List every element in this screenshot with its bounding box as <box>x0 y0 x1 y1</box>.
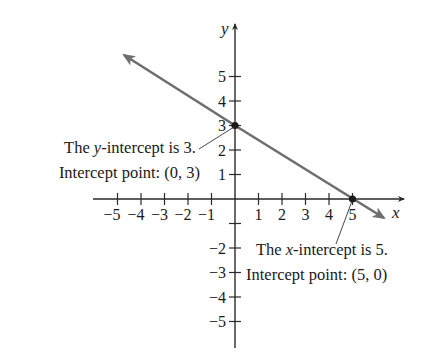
coordinate-plane: −5 −4 −3 −2 −1 1 2 3 4 5 5 4 3 2 1 −2 −3… <box>0 0 448 360</box>
x-axis-label: x <box>391 203 400 222</box>
graphed-line <box>235 126 384 219</box>
y-intercept-leader <box>199 127 234 149</box>
x-intercept-annotation-line2: Intercept point: (5, 0) <box>246 265 387 284</box>
x-tick-label: 2 <box>278 206 286 223</box>
y-intercept-annotation-line1: The y-intercept is 3. <box>64 138 196 157</box>
x-tick-label: 3 <box>302 206 310 223</box>
y-axis-label: y <box>219 19 229 38</box>
y-tick-label: −4 <box>209 289 226 306</box>
y-tick-label: −2 <box>209 240 226 257</box>
x-tick-label: −1 <box>198 206 215 223</box>
x-tick-label: 5 <box>349 206 357 223</box>
x-tick-labels: −5 −4 −3 −2 −1 1 2 3 4 5 <box>103 206 356 223</box>
y-tick-label: 1 <box>218 166 226 183</box>
x-tick-label: −2 <box>174 206 191 223</box>
y-tick-label: 2 <box>218 142 226 159</box>
x-tick-label: 1 <box>255 206 263 223</box>
x-tick-label: −3 <box>151 206 168 223</box>
x-tick-label: −4 <box>127 206 144 223</box>
x-tick-label: −5 <box>103 206 120 223</box>
graphed-line <box>124 55 235 126</box>
x-intercept-annotation-line1: The x-intercept is 5. <box>256 240 388 259</box>
y-tick-label: 4 <box>218 93 226 110</box>
y-tick-label: −5 <box>209 313 226 330</box>
y-intercept-annotation-line2: Intercept point: (0, 3) <box>59 163 200 182</box>
x-tick-label: 4 <box>325 206 333 223</box>
x-intercept-point <box>349 195 356 202</box>
y-tick-label: −3 <box>209 264 226 281</box>
y-tick-label: 5 <box>218 68 226 85</box>
